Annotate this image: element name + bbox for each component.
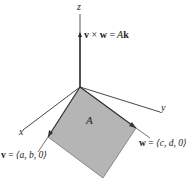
- vector-w-label: w = ⟨c, d, 0⟩: [139, 139, 187, 149]
- cross-w: w: [100, 29, 107, 40]
- cross-product-arrowhead-icon: [78, 32, 82, 37]
- vector-v-label: v = ⟨a, b, 0⟩: [1, 151, 47, 161]
- vector-w-equals: =: [148, 138, 153, 148]
- x-axis-label: x: [19, 127, 23, 137]
- area-label: A: [86, 115, 93, 126]
- vector-v-name: v: [1, 150, 6, 160]
- y-axis-label: y: [161, 103, 165, 113]
- cross-product-diagram: z y x A v × w =Ak v = ⟨a, b, 0⟩ w = ⟨c, …: [0, 0, 190, 187]
- cross-unit-k: k: [123, 29, 129, 40]
- z-axis-label: z: [77, 2, 81, 12]
- vector-v-equals: =: [8, 150, 13, 160]
- vector-w-components: ⟨c, d, 0⟩: [156, 138, 187, 148]
- cross-equals: =: [109, 29, 115, 40]
- cross-times: ×: [92, 29, 98, 40]
- cross-product-equation: v × w =Ak: [84, 30, 129, 40]
- vector-w-name: w: [139, 138, 146, 148]
- cross-v: v: [84, 29, 89, 40]
- vector-w-leader: [136, 128, 150, 138]
- vector-v-components: ⟨a, b, 0⟩: [16, 150, 47, 160]
